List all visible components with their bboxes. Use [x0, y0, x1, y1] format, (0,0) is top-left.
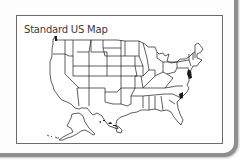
us-map[interactable]	[17, 16, 224, 145]
alaska	[47, 113, 95, 140]
contiguous-us	[50, 36, 203, 129]
screenshot-stage: Standard US Map	[0, 0, 240, 162]
map-title: Standard US Map	[24, 24, 108, 35]
map-panel[interactable]: Standard US Map	[16, 15, 223, 144]
